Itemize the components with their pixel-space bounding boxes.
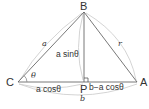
- point-label-B: B: [80, 0, 87, 12]
- point-label-C: C: [6, 76, 14, 88]
- label-height: a sinθ: [56, 49, 79, 59]
- arc-height: [79, 14, 84, 80]
- triangle-diagram: B C A P a r a sinθ θ a cosθ b−a cosθ b: [0, 0, 149, 109]
- point-label-A: A: [140, 76, 148, 88]
- label-segment-CP: a cosθ: [36, 84, 61, 94]
- side-CB: [18, 12, 84, 82]
- label-side-a: a: [42, 39, 47, 48]
- label-base-b: b: [80, 94, 85, 103]
- angle-theta-arc: [24, 76, 27, 83]
- side-BA: [84, 12, 137, 82]
- right-angle-mark: [84, 78, 88, 82]
- arc-side-r: [86, 13, 136, 80]
- label-segment-PA: b−a cosθ: [89, 82, 124, 92]
- label-angle-theta: θ: [31, 71, 36, 80]
